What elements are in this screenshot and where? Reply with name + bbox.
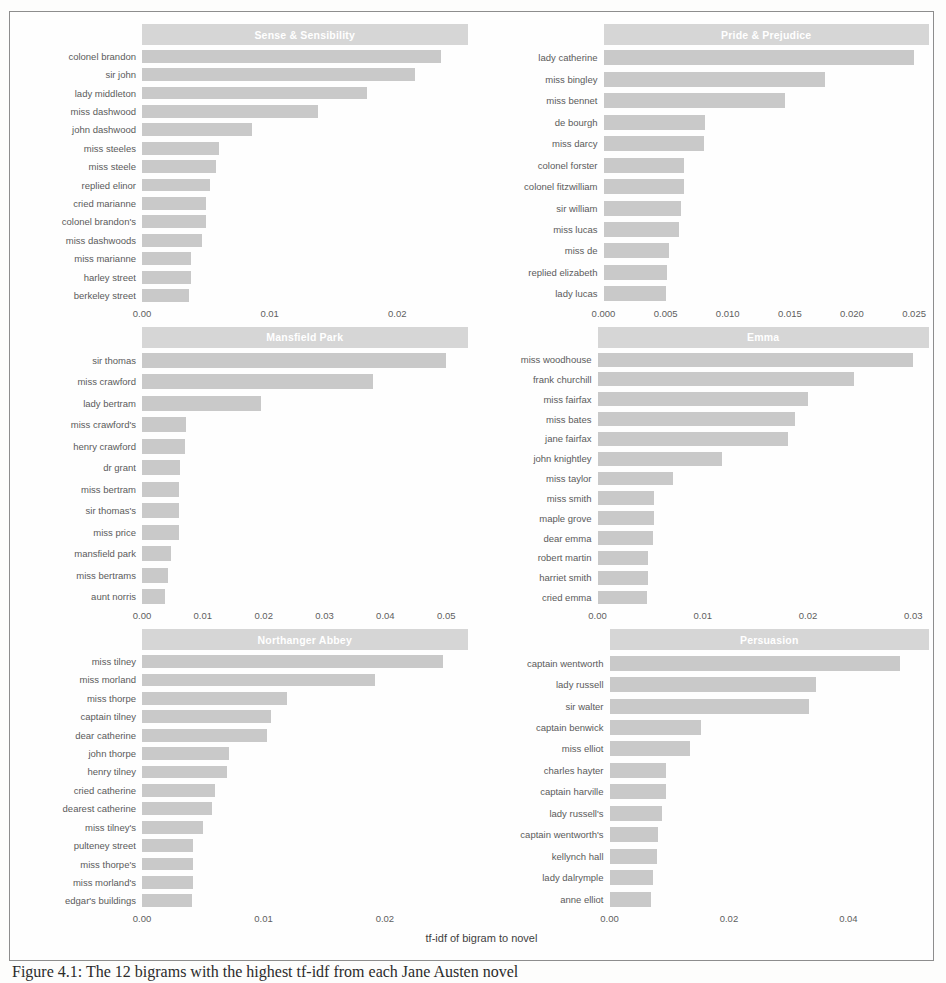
x-axis-tick-label: 0.015 [778, 308, 802, 319]
x-axis-tick-label: 0.01 [693, 610, 712, 621]
bar-row: sir william [486, 197, 930, 218]
bar [598, 591, 647, 605]
bar-category-label: captain tilney [24, 711, 142, 722]
bar-category-label: maple grove [486, 513, 598, 524]
bar [610, 763, 667, 778]
bar-row: miss bingley [486, 68, 930, 89]
bar [142, 710, 271, 723]
x-axis-tick-label: 0.02 [799, 610, 818, 621]
bar-row: captain wentworth's [486, 824, 930, 845]
bar-row: anne elliot [486, 888, 930, 909]
bar-category-label: miss steele [24, 161, 142, 172]
bar-category-label: anne elliot [486, 894, 610, 905]
bar-row: miss tilney's [24, 818, 468, 836]
bar [598, 392, 808, 406]
bar-row: sir thomas's [24, 500, 468, 521]
bar-row: replied elinor [24, 176, 468, 194]
bar-row: miss thorpe's [24, 855, 468, 873]
bar [142, 374, 373, 389]
facet-plot-panel: miss tilneymiss morlandmiss thorpecaptai… [24, 650, 468, 910]
bar-category-label: sir thomas [24, 355, 142, 366]
bar [142, 858, 193, 871]
bar-track [604, 133, 930, 154]
bar-track [142, 457, 468, 478]
bar-category-label: miss tilney's [24, 822, 142, 833]
bar-track [142, 652, 468, 670]
bar-track [142, 102, 468, 120]
bar-track [604, 111, 930, 132]
bar-track [142, 176, 468, 194]
bar [142, 568, 168, 583]
bar [142, 439, 185, 454]
bar-category-label: cried marianne [24, 198, 142, 209]
bar-category-label: john dashwood [24, 124, 142, 135]
bar-row: lady russell's [486, 803, 930, 824]
bar-track [142, 47, 468, 65]
bar-track [610, 674, 930, 695]
bar-category-label: lady catherine [486, 52, 604, 63]
bar-row: colonel forster [486, 154, 930, 175]
bar-track [604, 219, 930, 240]
bar-category-label: miss smith [486, 493, 598, 504]
bar-track [604, 154, 930, 175]
bar [610, 720, 701, 735]
bar-track [142, 84, 468, 102]
bar-row: dr grant [24, 457, 468, 478]
bar-track [142, 726, 468, 744]
bar-row: miss morland's [24, 873, 468, 891]
bar-category-label: henry tilney [24, 766, 142, 777]
bar [598, 531, 654, 545]
x-axis-tick-label: 0.04 [839, 913, 858, 924]
bar-row: colonel fitzwilliam [486, 176, 930, 197]
bar [142, 655, 443, 668]
bar-track [142, 689, 468, 707]
bar [142, 289, 189, 302]
bar-track [142, 671, 468, 689]
bar-track [142, 371, 468, 392]
bar-row: lady bertram [24, 393, 468, 414]
bar-row: miss dashwoods [24, 231, 468, 249]
x-axis: 0.000.010.020.03 [598, 607, 930, 629]
bar-track [604, 176, 930, 197]
x-axis-tick-label: 0.02 [376, 913, 395, 924]
bar-row: lady dalrymple [486, 867, 930, 888]
bar-row: miss lucas [486, 219, 930, 240]
bar-category-label: miss morland's [24, 877, 142, 888]
bar [604, 136, 705, 151]
bar-row: miss crawford's [24, 414, 468, 435]
x-axis-tick-label: 0.02 [254, 610, 273, 621]
bar-category-label: henry crawford [24, 441, 142, 452]
bar [604, 286, 666, 301]
bar-category-label: dear emma [486, 533, 598, 544]
bar-track [142, 855, 468, 873]
bar-category-label: de bourgh [486, 117, 604, 128]
facet-plot-panel: lady catherinemiss bingleymiss bennetde … [486, 45, 930, 305]
bar-row: robert martin [486, 548, 930, 568]
bar-category-label: mansfield park [24, 548, 142, 559]
bar-row: harriet smith [486, 568, 930, 588]
bar-track [610, 738, 930, 759]
facet-plot-panel: colonel brandonsir johnlady middletonmis… [24, 45, 468, 305]
bar [610, 827, 659, 842]
bar [142, 87, 367, 100]
x-axis-title: tf-idf of bigram to novel [20, 932, 943, 944]
bar-row: miss steele [24, 157, 468, 175]
bar [142, 674, 375, 687]
bar-track [142, 121, 468, 139]
bar-category-label: miss bingley [486, 74, 604, 85]
facet-title: Sense & Sensibility [254, 29, 355, 41]
bar-row: miss bennet [486, 90, 930, 111]
bar-track [598, 429, 930, 449]
bar-track [142, 350, 468, 371]
bar-row: captain benwick [486, 717, 930, 738]
facet-sense-sensibility: Sense & Sensibilitycolonel brandonsir jo… [20, 24, 482, 327]
bar-track [598, 548, 930, 568]
bar [604, 93, 785, 108]
bar [142, 747, 229, 760]
bar [598, 432, 788, 446]
bar-row: sir walter [486, 695, 930, 716]
bar [598, 452, 722, 466]
x-axis: 0.000.020.04 [610, 910, 930, 932]
facet-plot-panel: miss woodhousefrank churchillmiss fairfa… [486, 348, 930, 608]
bar [610, 849, 658, 864]
